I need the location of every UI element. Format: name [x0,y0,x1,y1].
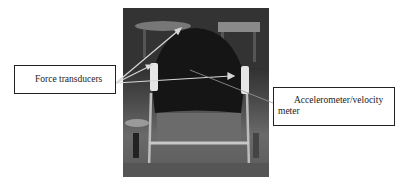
accel-label-text: Accelerometer/velocity meter [278,95,383,116]
force-transducers-label: Force transducers [14,65,116,94]
accelerometer-label: Accelerometer/velocity meter [273,87,395,126]
force-label-text: Force transducers [35,74,102,84]
figure-photo [123,8,269,177]
photo-illustration [123,8,269,177]
